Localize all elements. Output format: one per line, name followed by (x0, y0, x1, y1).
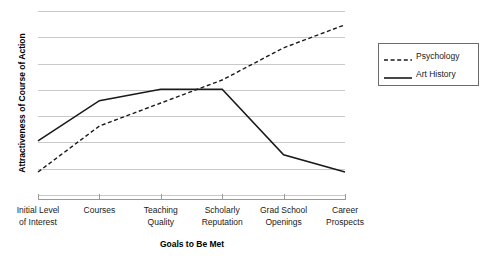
x-tick-label: Initial Level of Interest (7, 205, 69, 228)
x-tick-label: Grad School Openings (253, 205, 315, 228)
x-axis-title: Goals to Be Met (38, 239, 346, 249)
legend-swatch-solid-icon (384, 69, 412, 79)
gridline (38, 195, 345, 196)
legend-label-art-history: Art History (416, 69, 456, 79)
line-chart: Attractiveness of Course of Action Initi… (0, 0, 485, 260)
legend: Psychology Art History (378, 43, 479, 86)
series-line-psychology (38, 25, 345, 172)
x-axis-tick (161, 194, 162, 200)
x-tick-label: Career Prospects (314, 205, 376, 228)
x-axis-tick-labels: Initial Level of InterestCoursesTeaching… (30, 205, 354, 235)
x-tick-label: Courses (68, 205, 130, 217)
x-axis-tick (284, 194, 285, 200)
series-line-art-history (38, 89, 345, 172)
x-axis-tick (38, 194, 39, 200)
x-axis-line (38, 199, 345, 200)
x-axis-tick (99, 194, 100, 200)
x-axis-tick (222, 194, 223, 200)
legend-label-psychology: Psychology (416, 51, 459, 61)
legend-item-art-history: Art History (379, 66, 480, 82)
series-lines (38, 11, 345, 195)
y-axis-title: Attractiveness of Course of Action (17, 8, 27, 198)
x-axis-tick (345, 194, 346, 200)
legend-swatch-dashed-icon (384, 51, 412, 61)
x-tick-label: Teaching Quality (130, 205, 192, 228)
x-tick-label: Scholarly Reputation (191, 205, 253, 228)
legend-item-psychology: Psychology (379, 48, 480, 64)
